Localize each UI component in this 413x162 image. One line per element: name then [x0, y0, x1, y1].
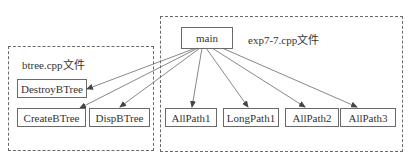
edge-main-allpath3	[222, 48, 357, 107]
node-allpath3: AllPath3	[340, 108, 396, 127]
node-allpath1: AllPath1	[165, 108, 217, 127]
edge-main-allpath1	[192, 48, 202, 107]
node-dispbtree: DispBTree	[89, 108, 150, 127]
node-createbtree: CreateBTree	[17, 108, 86, 127]
edge-main-createbtree	[80, 48, 198, 108]
node-allpath2: AllPath2	[285, 108, 339, 127]
edge-main-allpath2	[212, 48, 305, 107]
edge-main-dispbtree	[120, 48, 200, 107]
edge-main-destroybtree	[87, 48, 196, 89]
node-main: main	[181, 27, 233, 49]
node-longpath1: LongPath1	[223, 108, 279, 127]
node-destroybtree: DestroyBTree	[17, 79, 87, 98]
